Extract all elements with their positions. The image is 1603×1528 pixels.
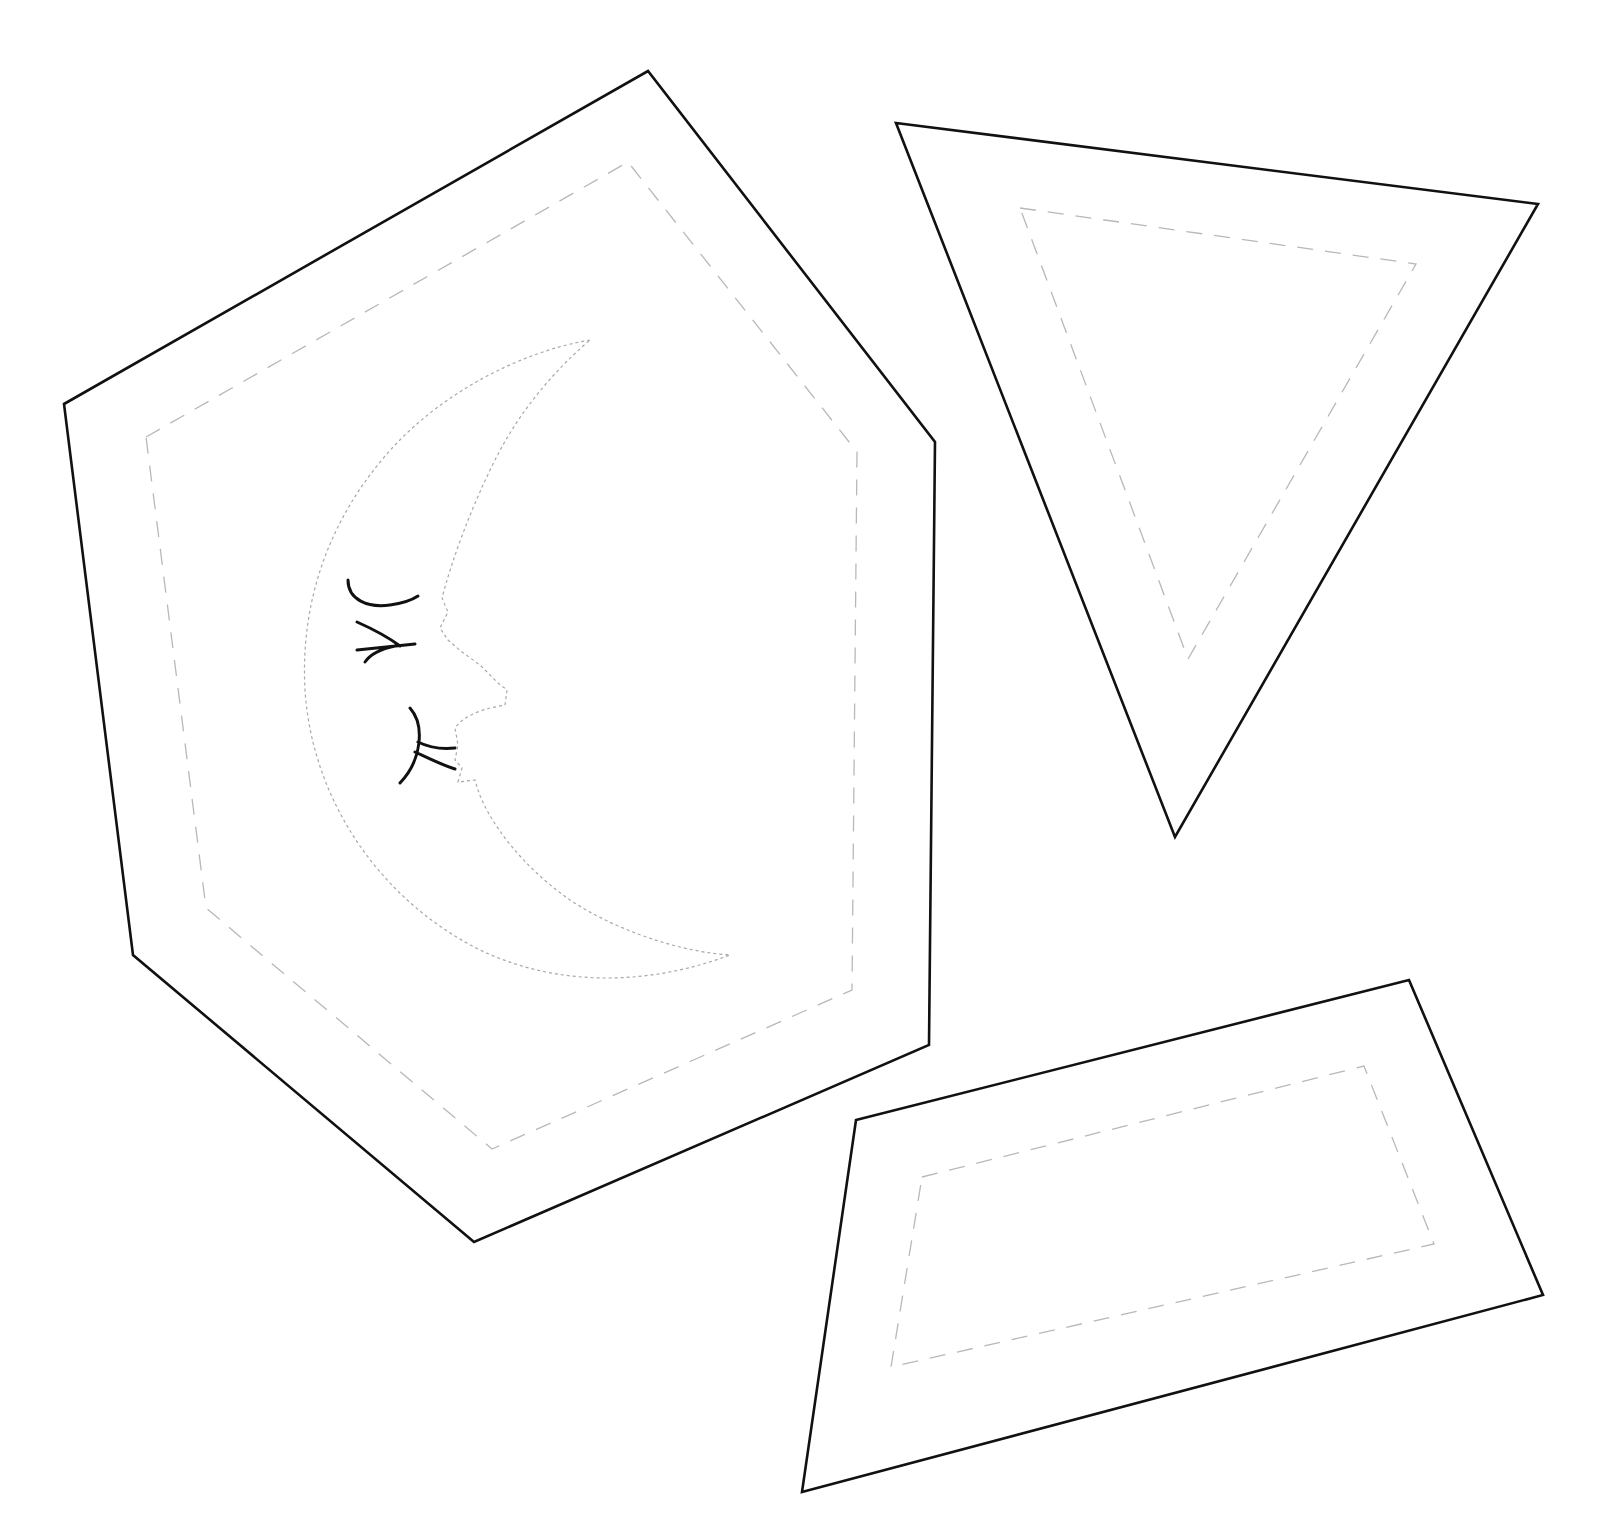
trapezoid-cut-line — [802, 980, 1543, 1492]
triangle-piece — [896, 123, 1538, 837]
pattern-template — [0, 0, 1603, 1528]
hexagon-cut-line — [64, 71, 935, 1242]
triangle-cut-line — [896, 123, 1538, 837]
hexagon-piece — [64, 71, 935, 1242]
trapezoid-piece — [802, 980, 1543, 1492]
